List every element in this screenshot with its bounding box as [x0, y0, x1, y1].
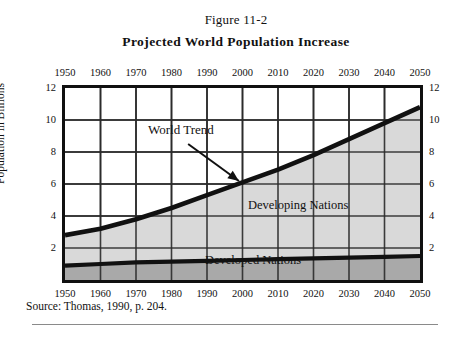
y-tick-label-left: 12	[46, 83, 57, 94]
annotation-developed-nations: Developed Nations	[205, 254, 301, 267]
source-note: Source: Thomas, 1990, p. 204.	[26, 300, 167, 312]
footer-rule	[32, 324, 438, 325]
x-tick-label-bottom: 2010	[268, 289, 289, 300]
x-tick-label-top: 1970	[126, 68, 147, 79]
x-tick-label-bottom: 2040	[374, 289, 395, 300]
x-tick-label-bottom: 2020	[303, 289, 324, 300]
figure-number: Figure 11-2	[0, 12, 472, 28]
x-tick-label-top: 2000	[232, 68, 253, 79]
y-tick-label-right: 10	[429, 115, 440, 126]
y-tick-label-left: 2	[51, 243, 56, 254]
y-tick-label-left: 4	[51, 211, 56, 222]
x-tick-label-top: 1960	[90, 68, 111, 79]
y-tick-label-right: 6	[429, 179, 434, 190]
x-tick-label-top: 2020	[303, 68, 324, 79]
x-tick-label-bottom: 1980	[161, 289, 182, 300]
x-tick-label-top: 2030	[339, 68, 360, 79]
y-tick-label-left: 6	[51, 179, 56, 190]
x-tick-label-bottom: 1950	[55, 289, 76, 300]
y-tick-label-right: 8	[429, 147, 434, 158]
plot-inner	[65, 88, 420, 280]
chart-container: Population in Billions 19501960197019801…	[0, 60, 472, 300]
x-tick-label-top: 1990	[197, 68, 218, 79]
y-tick-label-left: 10	[46, 115, 57, 126]
x-tick-label-top: 1980	[161, 68, 182, 79]
x-tick-label-bottom: 2030	[339, 289, 360, 300]
y-tick-label-left: 8	[51, 147, 56, 158]
x-tick-label-bottom: 2000	[232, 289, 253, 300]
x-tick-label-top: 2050	[410, 68, 431, 79]
annotation-developing-nations: Developing Nations	[248, 199, 348, 212]
annotation-world-trend: World Trend	[148, 123, 214, 136]
y-axis-label: Population in Billions	[0, 83, 6, 184]
x-tick-label-bottom: 1960	[90, 289, 111, 300]
y-tick-label-right: 4	[429, 211, 434, 222]
y-tick-label-right: 12	[429, 83, 440, 94]
figure-title: Projected World Population Increase	[0, 34, 472, 50]
x-tick-label-top: 2010	[268, 68, 289, 79]
y-tick-label-right: 2	[429, 243, 434, 254]
figure-page: Figure 11-2 Projected World Population I…	[0, 0, 472, 337]
x-tick-label-top: 2040	[374, 68, 395, 79]
x-tick-label-bottom: 1970	[126, 289, 147, 300]
x-tick-label-top: 1950	[55, 68, 76, 79]
x-tick-label-bottom: 1990	[197, 289, 218, 300]
chart-svg	[65, 88, 420, 280]
x-tick-label-bottom: 2050	[410, 289, 431, 300]
